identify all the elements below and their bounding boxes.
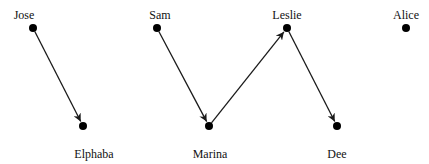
node-label-marina: Marina (193, 147, 228, 161)
node-leslie (283, 24, 291, 32)
node-marina (205, 122, 213, 130)
node-label-sam: Sam (149, 8, 171, 22)
edge-marina-to-leslie (211, 32, 283, 123)
directed-graph: JoseSamLeslieAliceElphabaMarinaDee (0, 0, 429, 164)
node-label-elphaba: Elphaba (74, 147, 114, 161)
node-alice (402, 24, 410, 32)
node-dee (333, 122, 341, 130)
node-label-leslie: Leslie (272, 8, 301, 22)
node-jose (29, 24, 37, 32)
labels-group: JoseSamLeslieAliceElphabaMarinaDee (14, 8, 419, 161)
node-sam (153, 24, 161, 32)
edge-leslie-to-dee (289, 32, 335, 122)
edge-jose-to-elphaba (35, 32, 81, 122)
node-label-jose: Jose (14, 8, 35, 22)
nodes-group (29, 24, 410, 130)
node-elphaba (79, 122, 87, 130)
node-label-alice: Alice (393, 8, 419, 22)
edges-group (35, 32, 335, 123)
edge-sam-to-marina (159, 32, 207, 122)
node-label-dee: Dee (327, 147, 346, 161)
